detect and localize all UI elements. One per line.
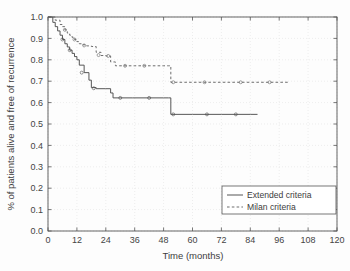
x-axis-title: Time (months)	[163, 250, 224, 261]
y-tick-label: 0.0	[30, 226, 43, 236]
x-tick-label: 24	[101, 235, 111, 245]
chart-canvas: 01224364860728496108120 0.00.10.20.30.40…	[0, 0, 350, 271]
y-tick-label: 0.3	[30, 162, 43, 172]
censor-marker	[97, 54, 100, 57]
y-tick-label: 0.6	[30, 98, 43, 108]
x-tick-label: 48	[159, 235, 169, 245]
y-axis-title: % of patients alive and free of recurren…	[5, 37, 16, 210]
legend-label: Milan criteria	[247, 202, 296, 212]
censor-marker	[80, 71, 83, 74]
y-tick-label: 0.8	[30, 55, 43, 65]
y-tick-label: 0.7	[30, 76, 43, 86]
x-tick-label: 12	[72, 235, 82, 245]
y-tick-label: 0.1	[30, 205, 43, 215]
y-tick-label: 0.4	[30, 141, 43, 151]
y-tick-label: 0.9	[30, 34, 43, 44]
x-tick-label: 96	[274, 235, 284, 245]
x-tick-labels: 01224364860728496108120	[45, 235, 344, 245]
legend-label: Extended criteria	[247, 190, 312, 200]
survival-curve-figure: 01224364860728496108120 0.00.10.20.30.40…	[0, 0, 350, 271]
censor-markers	[61, 28, 271, 116]
series-line-extended	[48, 17, 258, 114]
y-tick-labels: 0.00.10.20.30.40.50.60.70.80.91.0	[30, 12, 43, 236]
y-tick-label: 0.5	[30, 119, 43, 129]
x-tick-label: 36	[130, 235, 140, 245]
x-tick-label: 0	[45, 235, 50, 245]
x-tick-label: 60	[187, 235, 197, 245]
y-tick-label: 0.2	[30, 183, 43, 193]
legend-box[interactable]: Extended criteriaMilan criteria	[222, 186, 336, 214]
x-tick-label: 108	[301, 235, 316, 245]
x-tick-label: 72	[216, 235, 226, 245]
x-tick-label: 84	[245, 235, 255, 245]
series-lines	[48, 17, 289, 114]
y-tick-label: 1.0	[30, 12, 43, 22]
x-tick-label: 120	[329, 235, 344, 245]
